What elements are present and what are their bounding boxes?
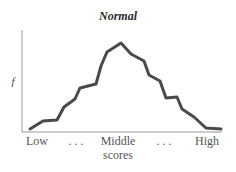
x-tick-high: High bbox=[195, 134, 219, 148]
x-tick-middle: Middle scores bbox=[101, 134, 136, 162]
x-tick-dots-left: . . . bbox=[69, 134, 84, 148]
x-axis-label: scores bbox=[101, 148, 136, 162]
x-tick-middle-label: Middle bbox=[101, 134, 136, 148]
x-tick-low: Low bbox=[26, 134, 48, 148]
distribution-line bbox=[30, 43, 221, 129]
x-tick-dots-right: . . . bbox=[157, 134, 172, 148]
frequency-distribution-chart: Normal f Low . . . Middle scores . . . H… bbox=[0, 0, 236, 172]
